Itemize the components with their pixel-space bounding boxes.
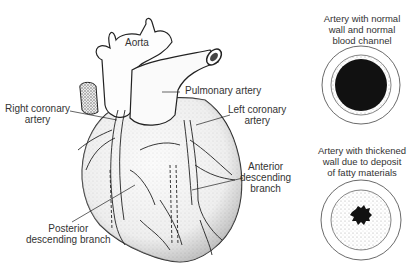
caption-normal-artery: Artery with normal wall and normal blood… — [320, 13, 404, 46]
cross-section-narrowed — [321, 180, 401, 260]
cross-section-normal — [322, 46, 400, 124]
label-pulmonary-artery: Pulmonary artery — [185, 85, 261, 96]
label-aorta: Aorta — [125, 37, 149, 48]
label-right-coronary-artery: Right coronary artery — [5, 103, 70, 125]
label-posterior-descending-branch: Posterior descending branch — [26, 223, 111, 245]
label-left-coronary-artery: Left coronary artery — [228, 104, 286, 126]
label-anterior-descending-branch: Anterior descending branch — [240, 161, 291, 194]
caption-narrowed-artery: Artery with thickened wall due to deposi… — [316, 145, 408, 178]
